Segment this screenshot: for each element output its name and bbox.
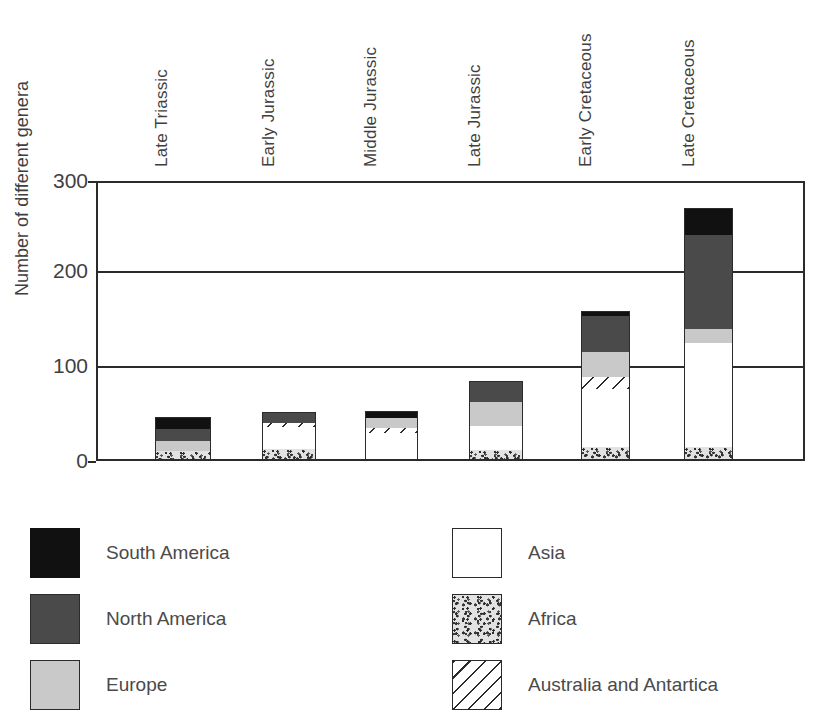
bar-early-jurassic: [262, 412, 316, 459]
bar-segment-south-america: [684, 208, 733, 235]
x-axis-label-late-cretaceous: Late Cretaceous: [679, 39, 699, 167]
dinosaur-genera-stacked-bar-chart: Late Triassic Early Jurassic Middle Jura…: [0, 0, 816, 727]
legend-swatch-australia-antartica: [452, 660, 502, 710]
bar-segment-africa: [262, 449, 316, 459]
legend-label-australia-antartica: Australia and Antartica: [528, 674, 718, 696]
x-axis-label-early-cretaceous: Early Cretaceous: [576, 33, 596, 167]
bar-segment-africa: [469, 450, 523, 459]
bar-segment-asia: [581, 389, 630, 447]
bar-segment-north-america: [684, 235, 733, 329]
bar-segment-north-america: [581, 316, 630, 352]
legend-item-australia-antartica[interactable]: Australia and Antartica: [452, 652, 812, 718]
legend-item-africa[interactable]: Africa: [452, 586, 812, 652]
bar-late-cretaceous: [684, 208, 733, 459]
bar-late-triassic: [155, 417, 211, 459]
legend-column-left: South America North America Europe: [30, 520, 410, 718]
bar-segment-north-america: [155, 429, 211, 441]
y-tick-0: 0: [28, 449, 88, 473]
y-tick-300: 300: [28, 169, 88, 193]
legend-item-asia[interactable]: Asia: [452, 520, 812, 586]
bar-segment-europe: [469, 402, 523, 426]
x-axis-label-middle-jurassic: Middle Jurassic: [361, 47, 381, 167]
bar-segment-australia: [581, 377, 630, 389]
bar-segment-africa: [684, 447, 733, 459]
legend-swatch-north-america: [30, 594, 80, 644]
bar-segment-africa: [581, 447, 630, 459]
bar-middle-jurassic: [365, 411, 418, 459]
legend-item-north-america[interactable]: North America: [30, 586, 410, 652]
y-axis-ticks: 300 200 100 0: [20, 181, 88, 461]
legend-label-north-america: North America: [106, 608, 226, 630]
legend-item-south-america[interactable]: South America: [30, 520, 410, 586]
legend-swatch-asia: [452, 528, 502, 578]
bar-early-cretaceous: [581, 311, 630, 459]
x-axis-label-late-triassic: Late Triassic: [152, 69, 172, 167]
legend-swatch-europe: [30, 660, 80, 710]
legend-label-africa: Africa: [528, 608, 577, 630]
legend-swatch-south-america: [30, 528, 80, 578]
x-axis-category-labels: Late Triassic Early Jurassic Middle Jura…: [0, 0, 816, 175]
bar-segment-europe: [684, 329, 733, 343]
bar-segment-asia: [469, 426, 523, 450]
bar-segment-north-america: [469, 381, 523, 402]
legend: South America North America Europe Asia …: [0, 520, 816, 720]
y-tick-200: 200: [28, 259, 88, 283]
y-tick-100: 100: [28, 354, 88, 378]
bar-segment-north-america: [262, 412, 316, 423]
bar-segment-africa: [155, 451, 211, 459]
legend-label-asia: Asia: [528, 542, 565, 564]
legend-item-europe[interactable]: Europe: [30, 652, 410, 718]
legend-label-south-america: South America: [106, 542, 230, 564]
bar-segment-europe: [581, 352, 630, 377]
bar-late-jurassic: [469, 381, 523, 459]
x-axis-label-early-jurassic: Early Jurassic: [259, 58, 279, 167]
bar-segment-asia: [684, 343, 733, 447]
legend-column-right: Asia Africa Australia and Antartica: [452, 520, 812, 718]
bar-segment-south-america: [155, 417, 211, 429]
bar-segment-europe: [155, 441, 211, 451]
x-axis-label-late-jurassic: Late Jurassic: [465, 64, 485, 167]
bar-segment-europe: [365, 418, 418, 428]
legend-swatch-africa: [452, 594, 502, 644]
y-tickmark-0: [88, 461, 96, 463]
legend-label-europe: Europe: [106, 674, 167, 696]
bar-segment-asia: [262, 427, 316, 449]
y-tickmark-300: [88, 181, 96, 183]
plot-area: [96, 181, 805, 461]
bar-segment-south-america: [365, 411, 418, 418]
bar-segment-asia: [365, 433, 418, 459]
